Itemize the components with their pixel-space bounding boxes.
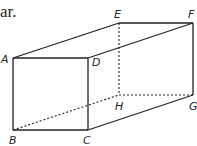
solid-edges — [13, 23, 193, 130]
label-e: E — [114, 8, 121, 21]
prism-diagram: A B C D E F G H — [0, 0, 197, 146]
edge-cg — [88, 95, 193, 130]
dashed-edges — [13, 23, 193, 130]
label-h: H — [115, 100, 123, 113]
label-c: C — [83, 134, 91, 146]
label-g: G — [189, 100, 197, 113]
label-f: F — [188, 8, 195, 21]
label-b: B — [9, 134, 17, 146]
label-d: D — [92, 56, 100, 69]
label-a: A — [0, 53, 9, 66]
